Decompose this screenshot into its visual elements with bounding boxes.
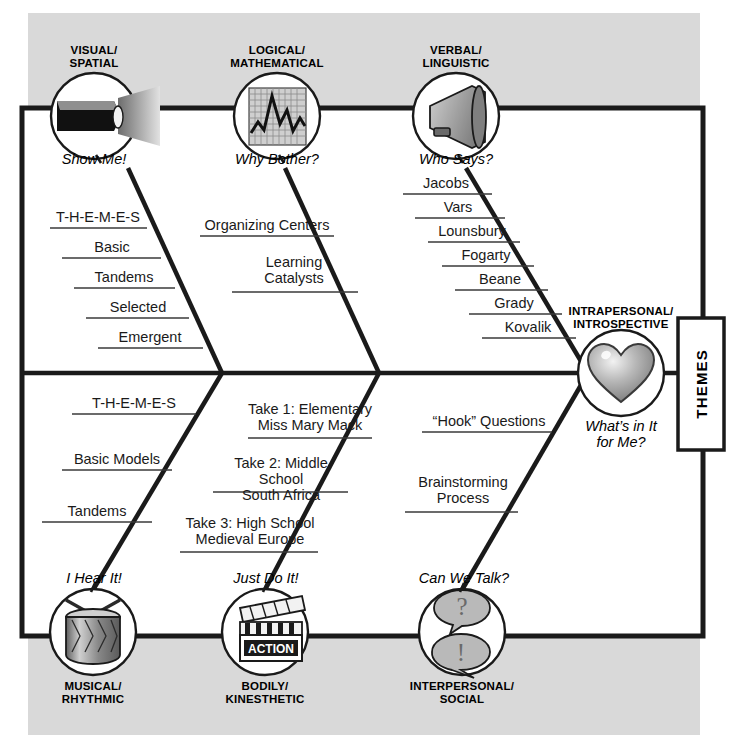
bone-item-logical-1: Organizing Centers: [196, 217, 338, 233]
themes-head-box-label-wrap: THEMES: [678, 318, 724, 450]
bone-item-bodily-3: Take 3: High School Medieval Europe: [180, 515, 320, 547]
label-intrapersonal-introspective: INTRAPERSONAL/ INTROSPECTIVE: [551, 305, 691, 331]
bone-item-verbal-1: Jacobs: [396, 175, 496, 191]
bone-item-verbal-2: Vars: [408, 199, 508, 215]
bone-item-line-2: Miss Mary Mack: [246, 417, 374, 433]
bone-item-visual-1: T-H-E-M-E-S: [42, 209, 154, 225]
label-line-2: LINGUISTIC: [396, 57, 516, 70]
bone-item-visual-4: Selected: [82, 299, 194, 315]
bone-item-verbal-4: Fogarty: [436, 247, 536, 263]
bone-item-visual-5: Emergent: [94, 329, 206, 345]
prompt-verbal-linguistic: Who Says?: [398, 151, 514, 167]
diagram-canvas: ACTION ? !: [0, 0, 744, 748]
themes-head-box-label: THEMES: [693, 349, 710, 419]
clapperboard-action-text: ACTION: [248, 642, 294, 656]
bone-item-verbal-5: Beane: [450, 271, 550, 287]
bone-item-line-2: South Africa: [211, 487, 351, 503]
prompt-line-2: for Me?: [561, 434, 681, 450]
label-line-2: SOCIAL: [392, 693, 532, 706]
icon-circle-intrapersonal-introspective: [578, 330, 664, 416]
label-line-1: LOGICAL/: [207, 44, 347, 57]
prompt-musical-rhythmic: I Hear It!: [40, 570, 148, 586]
label-line-1: BODILY/: [205, 680, 325, 693]
bone-item-musical-3: Tandems: [42, 503, 152, 519]
question-mark-glyph: ?: [456, 593, 467, 620]
bone-item-verbal-6: Grady: [464, 295, 564, 311]
bone-item-line-2: Catalysts: [234, 270, 354, 286]
bone-item-visual-3: Tandems: [68, 269, 180, 285]
label-line-1: INTRAPERSONAL/: [551, 305, 691, 318]
prompt-bodily-kinesthetic: Just Do It!: [212, 570, 320, 586]
bone-item-line-2: Process: [404, 490, 522, 506]
label-line-1: VISUAL/: [34, 44, 154, 57]
bone-item-visual-2: Basic: [56, 239, 168, 255]
clapperboard-icon: ACTION: [240, 596, 305, 661]
label-line-2: SPATIAL: [34, 57, 154, 70]
bone-item-musical-1: T-H-E-M-E-S: [72, 395, 196, 411]
bone-item-line-1: Learning: [234, 254, 354, 270]
bone-item-bodily-1: Take 1: Elementary Miss Mary Mack: [246, 401, 374, 433]
prompt-intrapersonal-introspective: What’s in It for Me?: [561, 418, 681, 450]
bone-item-line-1: Take 1: Elementary: [246, 401, 374, 417]
label-line-2: RHYTHMIC: [33, 693, 153, 706]
bone-item-line-1: Take 3: High School: [180, 515, 320, 531]
label-logical-mathematical: LOGICAL/ MATHEMATICAL: [207, 44, 347, 70]
label-bodily-kinesthetic: BODILY/ KINESTHETIC: [205, 680, 325, 706]
label-line-2: MATHEMATICAL: [207, 57, 347, 70]
label-visual-spatial: VISUAL/ SPATIAL: [34, 44, 154, 70]
label-interpersonal-social: INTERPERSONAL/ SOCIAL: [392, 680, 532, 706]
prompt-line-1: What’s in It: [561, 418, 681, 434]
bone-item-verbal-3: Lounsbury: [422, 223, 522, 239]
bone-item-interpersonal-2: Brainstorming Process: [404, 474, 522, 506]
bone-item-bodily-2: Take 2: Middle School South Africa: [211, 455, 351, 504]
bone-item-line-1: Take 2: Middle School: [211, 455, 351, 487]
label-line-2: INTROSPECTIVE: [551, 318, 691, 331]
label-musical-rhythmic: MUSICAL/ RHYTHMIC: [33, 680, 153, 706]
label-line-1: INTERPERSONAL/: [392, 680, 532, 693]
label-line-2: KINESTHETIC: [205, 693, 325, 706]
fishbone-diagram: ACTION ? ! VISUAL/ SPATIAL: [0, 0, 744, 748]
bone-item-interpersonal-1: “Hook” Questions: [424, 413, 554, 429]
label-line-1: MUSICAL/: [33, 680, 153, 693]
prompt-visual-spatial: Show Me!: [39, 151, 149, 167]
bone-item-line-2: Medieval Europe: [180, 531, 320, 547]
prompt-logical-mathematical: Why Bother?: [217, 151, 337, 167]
bone-item-logical-2: Learning Catalysts: [234, 254, 354, 286]
bone-item-line-1: Brainstorming: [404, 474, 522, 490]
prompt-interpersonal-social: Can We Talk?: [403, 570, 525, 586]
exclamation-mark-glyph: !: [457, 639, 465, 666]
label-line-1: VERBAL/: [396, 44, 516, 57]
line-graph-icon: [249, 88, 306, 145]
bone-item-musical-2: Basic Models: [62, 451, 172, 467]
label-verbal-linguistic: VERBAL/ LINGUISTIC: [396, 44, 516, 70]
